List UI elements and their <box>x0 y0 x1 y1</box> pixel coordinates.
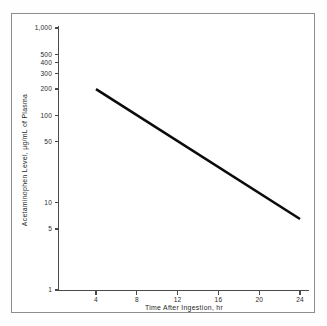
y-tick-label: 400 <box>41 59 53 66</box>
y-tick-label: 300 <box>41 70 53 77</box>
axes-group <box>59 26 310 291</box>
data-series-line <box>96 89 300 219</box>
x-tick-label: 12 <box>174 296 182 303</box>
y-axis-ticks: 1,000500400300200100501051 <box>35 24 59 293</box>
x-tick-label: 16 <box>215 296 223 303</box>
data-series-group <box>96 89 300 219</box>
x-tick-label: 24 <box>296 296 304 303</box>
y-tick-label: 500 <box>41 51 53 58</box>
x-tick-label: 20 <box>255 296 263 303</box>
x-axis-ticks: 4812162024 <box>94 291 304 304</box>
y-tick-label: 50 <box>44 138 52 145</box>
y-tick-label: 1,000 <box>35 24 52 31</box>
semilog-plot: 1,000500400300200100501051 4812162024 Ti… <box>0 0 327 326</box>
y-tick-label: 10 <box>44 199 52 206</box>
y-tick-label: 200 <box>41 85 53 92</box>
x-axis-title: Time After Ingestion, hr <box>145 304 224 312</box>
x-tick-label: 4 <box>94 296 98 303</box>
y-tick-label: 1 <box>48 286 52 293</box>
figure-root: 1,000500400300200100501051 4812162024 Ti… <box>0 0 327 326</box>
x-tick-label: 8 <box>135 296 139 303</box>
y-tick-label: 5 <box>48 225 52 232</box>
y-tick-label: 100 <box>41 112 53 119</box>
y-axis-title: Acetaminophen Level, µg/mL of Plasma <box>21 94 29 227</box>
